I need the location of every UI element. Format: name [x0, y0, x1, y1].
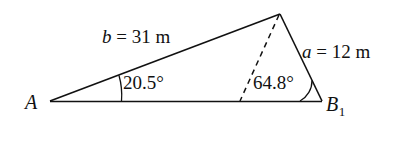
angle-arc-B1: [300, 81, 312, 102]
geometry-canvas: [0, 0, 398, 142]
side-label-b-value: = 31 m: [112, 26, 171, 47]
angle-label-B1: 64.8°: [253, 73, 294, 92]
side-label-a-var: a: [302, 41, 312, 62]
angle-label-A: 20.5°: [123, 73, 164, 92]
side-label-b-var: b: [102, 26, 112, 47]
triangle-figure: b = 31 m a = 12 m 20.5° 64.8° A B1: [0, 0, 398, 142]
side-label-a-value: = 12 m: [312, 41, 371, 62]
angle-arc-A: [119, 76, 122, 102]
vertex-label-B1: B1: [326, 94, 345, 118]
vertex-label-B1-letter: B: [326, 93, 338, 115]
vertex-label-A: A: [25, 92, 37, 112]
side-label-a: a = 12 m: [302, 42, 370, 61]
side-label-b: b = 31 m: [102, 27, 170, 46]
vertex-label-B1-subscript: 1: [338, 104, 345, 119]
